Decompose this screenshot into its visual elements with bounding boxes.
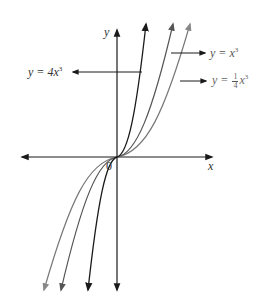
label-4x-cubed-exp: 3 [59,65,63,73]
label-x-cubed-prefix: y = [210,46,229,60]
fraction-one-quarter: 14 [232,73,238,90]
y-axis-label: y [104,26,109,38]
label-4x-cubed-prefix: y = 4 [28,65,53,79]
label-x-cubed: y = x3 [210,47,238,59]
label-quarter-prefix: y = [212,73,231,87]
x-axis-label: x [208,160,213,172]
origin-label: 0 [106,160,112,172]
fraction-denominator: 4 [232,82,238,90]
label-quarter-x-cubed: y = 14x3 [212,73,248,90]
label-x-cubed-exp: 3 [235,46,239,54]
label-4x-cubed: y = 4x3 [28,66,62,78]
cubic-functions-graph [0,0,262,296]
label-quarter-exp: 3 [245,73,249,81]
